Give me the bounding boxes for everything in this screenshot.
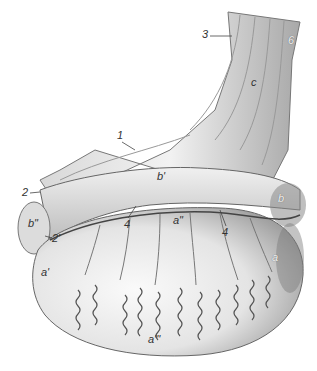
label-4-right: 4 bbox=[222, 227, 228, 238]
label-b: b bbox=[278, 193, 284, 204]
label-c: c bbox=[251, 77, 257, 88]
label-1: 1 bbox=[117, 130, 123, 141]
label-b-prime: b' bbox=[157, 171, 165, 182]
label-a: a bbox=[272, 252, 278, 263]
label-a-double-prime: a" bbox=[173, 215, 183, 226]
anatomical-figure: 3 6 c 1 b' 2 b b" 2' 4 a" 4 a a' a''' bbox=[0, 0, 317, 371]
label-a-prime: a' bbox=[41, 267, 49, 278]
label-4-left: 4 bbox=[124, 219, 130, 230]
label-2: 2 bbox=[22, 187, 28, 198]
label-3: 3 bbox=[202, 29, 208, 40]
label-6: 6 bbox=[288, 35, 294, 46]
label-b-double-prime: b" bbox=[28, 218, 38, 229]
cord bbox=[40, 12, 300, 192]
label-a-triple-prime: a''' bbox=[148, 334, 160, 345]
label-2-prime: 2' bbox=[52, 233, 60, 244]
illustration bbox=[0, 0, 317, 371]
